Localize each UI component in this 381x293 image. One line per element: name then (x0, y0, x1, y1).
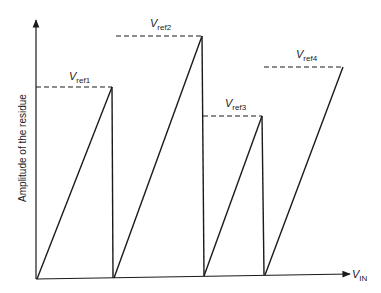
ramp-1: Vref1 (36, 70, 113, 279)
vref2-label: Vref2 (150, 17, 172, 32)
vref1-label: Vref1 (69, 70, 91, 85)
ramp-1-rise (37, 87, 112, 279)
vref3-label: Vref3 (225, 97, 247, 112)
vref4-label: Vref4 (296, 48, 318, 63)
ramp-2-drop (202, 36, 204, 276)
ramp-3: Vref3 (203, 97, 264, 276)
ramp-3-drop (262, 116, 264, 275)
ramp-1-drop (112, 87, 113, 278)
x-axis-label-sub: IN (359, 274, 367, 283)
x-axis-label: VIN (352, 268, 368, 283)
x-axis (36, 274, 350, 279)
ramp-2-rise (114, 36, 202, 278)
y-axis-label: Amplitude of the residue (17, 94, 28, 202)
residue-diagram: Amplitude of the residue VIN Vref1 Vref2… (0, 0, 381, 293)
ramp-4-rise (265, 67, 343, 275)
ramp-3-rise (204, 116, 262, 276)
ramp-4: Vref4 (264, 48, 343, 275)
ramp-2: Vref2 (114, 17, 204, 278)
